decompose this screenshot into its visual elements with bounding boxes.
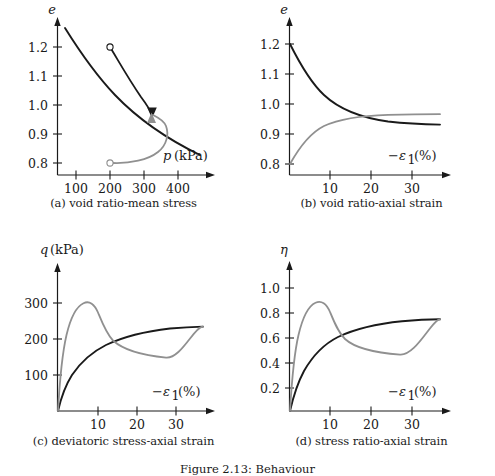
panel-c-xtick-1: 20	[129, 417, 145, 432]
panel-c-xaxis-unit: (%)	[178, 384, 201, 399]
panel-d-ytick-3: 0.8	[260, 306, 280, 321]
panel-c-xaxis-label: −ε	[152, 384, 170, 399]
panel-b-ytick-2: 1.0	[260, 97, 280, 112]
panel-b-dense-curve	[290, 44, 440, 125]
panel-c-xtick-0: 10	[90, 417, 106, 432]
panel-a-dense-start-marker	[107, 44, 113, 50]
panel-d-yaxis-label: η	[280, 242, 288, 257]
panel-d-ytick-1: 0.4	[260, 356, 280, 371]
panel-c-ytick-0: 100	[24, 368, 48, 383]
panel-a-xtick-1: 200	[98, 181, 122, 196]
panel-a-subcaption: (a) void ratio-mean stress	[0, 196, 247, 210]
figure-container: 0.8 0.9 1.0 1.1 1.2 100 200 300 400 p (k…	[0, 0, 495, 476]
panel-c-yaxis-unit: (kPa)	[50, 242, 84, 257]
panel-b-ytick-0: 0.8	[260, 157, 280, 172]
panel-d-ytick-0: 0.2	[260, 381, 280, 396]
panel-c-ytick-2: 300	[24, 296, 48, 311]
panel-d-subcaption: (d) stress ratio-axial strain	[248, 434, 495, 448]
panel-c-xtick-2: 30	[168, 417, 184, 432]
panel-a-ytick-1: 0.9	[28, 127, 48, 142]
panel-c-ytick-1: 200	[24, 332, 48, 347]
panel-b-plot: 0.8 0.9 1.0 1.1 1.2 10 20 30 −ε 1 (%) e	[248, 0, 495, 200]
panel-a-xtick-3: 400	[166, 181, 190, 196]
panel-c-subcaption: (c) deviatoric stress-axial strain	[0, 434, 247, 448]
panel-a-xaxis-label: p	[163, 148, 172, 163]
panel-a-loose-start-marker	[107, 160, 113, 166]
panel-d-ytick-2: 0.6	[260, 331, 280, 346]
panel-a: 0.8 0.9 1.0 1.1 1.2 100 200 300 400 p (k…	[0, 0, 247, 238]
panel-b-xaxis-label: −ε	[388, 148, 406, 163]
panel-b-xaxis-unit: (%)	[414, 148, 437, 163]
panel-a-critical-state-line	[65, 28, 200, 155]
panel-d-xaxis-label: −ε	[388, 384, 406, 399]
panel-c-yaxis-label: q	[40, 242, 48, 257]
panel-b: 0.8 0.9 1.0 1.1 1.2 10 20 30 −ε 1 (%) e …	[248, 0, 495, 238]
panel-a-xtick-2: 300	[132, 181, 156, 196]
panel-b-ytick-1: 0.9	[260, 127, 280, 142]
panel-a-ytick-4: 1.2	[28, 40, 48, 55]
panel-a-yaxis-label: e	[48, 2, 56, 17]
panel-b-xtick-1: 20	[363, 181, 379, 196]
panel-b-xtick-2: 30	[404, 181, 420, 196]
panel-a-plot: 0.8 0.9 1.0 1.1 1.2 100 200 300 400 p (k…	[0, 0, 247, 200]
figure-caption: Figure 2.13: Behaviour	[0, 462, 495, 476]
panel-d-ytick-4: 1.0	[260, 281, 280, 296]
panel-a-xtick-0: 100	[64, 181, 88, 196]
panel-d-xaxis-unit: (%)	[414, 384, 437, 399]
panel-d-xtick-0: 10	[322, 417, 338, 432]
panel-d: 0.2 0.4 0.6 0.8 1.0 10 20 30 −ε 1 (%) η …	[248, 238, 495, 476]
panel-b-subcaption: (b) void ratio-axial strain	[248, 196, 495, 210]
panel-d-xtick-2: 30	[404, 417, 420, 432]
panel-a-ytick-0: 0.8	[28, 156, 48, 171]
panel-a-loose-path	[113, 115, 167, 163]
panel-c: 100 200 300 10 20 30 −ε 1 (%) q (kPa) (c…	[0, 238, 247, 476]
panel-c-plot: 100 200 300 10 20 30 −ε 1 (%) q (kPa)	[0, 238, 247, 438]
panel-a-loose-arrowhead	[147, 113, 156, 124]
panel-b-yaxis-label: e	[280, 2, 288, 17]
panel-d-xtick-1: 20	[363, 417, 379, 432]
panel-b-xtick-0: 10	[322, 181, 338, 196]
panel-a-dense-path	[110, 47, 152, 114]
panel-d-plot: 0.2 0.4 0.6 0.8 1.0 10 20 30 −ε 1 (%) η	[248, 238, 495, 438]
panel-a-ytick-2: 1.0	[28, 98, 48, 113]
panel-a-ytick-3: 1.1	[28, 69, 48, 84]
panel-b-ytick-3: 1.1	[260, 67, 280, 82]
panel-b-ytick-4: 1.2	[260, 37, 280, 52]
